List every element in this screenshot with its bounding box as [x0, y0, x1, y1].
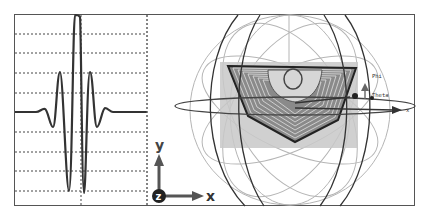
theta-label: Theta [372, 92, 389, 98]
phi-label: Phi [372, 73, 382, 79]
z-axis-label: z [156, 191, 162, 202]
figure-svg: y z x [0, 0, 429, 222]
x-axis-label: x [206, 188, 215, 204]
wavelet-curve [15, 15, 147, 193]
x-direction-label: x [406, 107, 410, 113]
y-axis-label: y [155, 137, 164, 153]
